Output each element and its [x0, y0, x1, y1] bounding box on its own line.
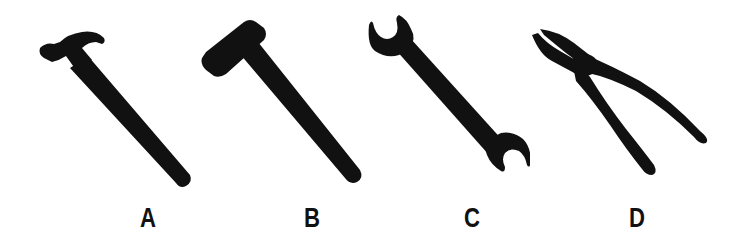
label-c: C [460, 200, 485, 236]
tool-a [30, 30, 200, 190]
label-d: D [625, 200, 650, 236]
pliers-icon [530, 25, 730, 185]
tool-b [200, 20, 370, 190]
mallet-icon [200, 20, 370, 190]
wrench-icon [365, 15, 530, 175]
label-b: B [300, 200, 325, 236]
label-a: A [136, 200, 161, 236]
tool-d [530, 25, 730, 185]
claw-hammer-icon [30, 30, 200, 190]
tool-c [365, 15, 530, 175]
